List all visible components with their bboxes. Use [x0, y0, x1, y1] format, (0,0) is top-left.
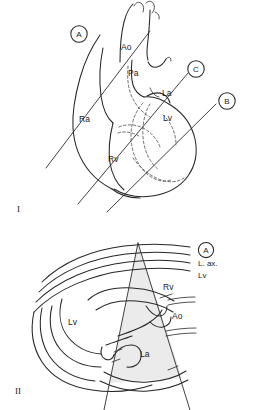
label-ra: Ra — [79, 114, 90, 124]
legend-line-long-axis: L. ax. — [198, 259, 218, 268]
panel-1-numeral: I — [17, 204, 20, 214]
marker-b[interactable]: B — [219, 93, 235, 109]
scan-plane-line-c — [78, 73, 188, 204]
marker-a-label: A — [76, 30, 82, 39]
panel-2-numeral: II — [15, 386, 21, 396]
marker-a[interactable]: A — [71, 26, 87, 42]
legend-marker-a-label: A — [203, 246, 209, 255]
posterior-leaflet-tip — [101, 347, 114, 360]
aortic-arch-branch-1 — [134, 2, 144, 12]
label-la: La — [162, 88, 172, 98]
pulmonary-artery-branch — [166, 57, 171, 61]
label-rv-2: Rv — [163, 282, 174, 292]
descending-aorta-line-2 — [168, 302, 195, 305]
legend-marker-a[interactable]: A — [198, 242, 213, 257]
septum-dashed — [119, 125, 160, 147]
marker-c-label: C — [193, 65, 199, 74]
aorta-outline — [120, 4, 133, 62]
label-ao-2: Ao — [172, 311, 183, 321]
figure-canvas: A C B Ao Pa La Lv Ra Rv I — [0, 0, 253, 410]
marker-c[interactable]: C — [188, 61, 204, 77]
legend-line-lv: Lv — [198, 271, 206, 280]
lv-cavity-outline — [50, 306, 101, 367]
descending-aorta-line-3 — [166, 328, 196, 331]
right-atrium-outline — [73, 35, 112, 189]
label-pa: Pa — [128, 68, 139, 78]
anatomical-figure: A C B Ao Pa La Lv Ra Rv I — [0, 0, 253, 410]
label-rv: Rv — [108, 154, 119, 164]
descending-aorta-line-4 — [166, 333, 196, 336]
aortic-arch-tip — [155, 12, 159, 19]
pulmonary-artery-right — [148, 59, 166, 67]
lv-cavity-inner — [60, 299, 101, 354]
label-ao: Ao — [121, 42, 132, 52]
marker-b-label: B — [224, 97, 229, 106]
panel-1-group: A C B Ao Pa La Lv Ra Rv I — [17, 1, 235, 214]
label-lv-2: Lv — [68, 317, 78, 327]
pulmonary-artery-outline — [131, 60, 144, 97]
label-lv: Lv — [163, 113, 173, 123]
right-atrium-septal-border — [100, 48, 113, 123]
scan-plane-line-b — [107, 104, 216, 212]
panel-2-group: A L. ax. Lv Rv Ao Lv La II — [15, 242, 218, 410]
chest-wall-line-1 — [42, 244, 190, 282]
label-la-2: La — [140, 349, 150, 359]
scan-plane-line-a — [46, 31, 150, 168]
